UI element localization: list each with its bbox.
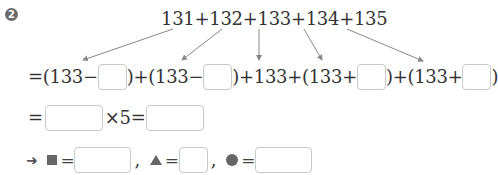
answer-box-row2-3[interactable] bbox=[357, 64, 386, 90]
row2-part1-suffix: )+ bbox=[127, 65, 149, 89]
row2-part4-prefix: (133+ bbox=[407, 65, 462, 89]
triangle-equals: = bbox=[165, 148, 179, 172]
square-equals: = bbox=[60, 148, 74, 172]
row2-part2-suffix: )+133+ bbox=[232, 65, 302, 89]
square-shape-icon bbox=[47, 155, 57, 165]
row2-expression: = (133− )+ (133− )+133+ (133+ )+ (133+ ) bbox=[28, 64, 498, 90]
answer-box-circle[interactable] bbox=[255, 147, 312, 173]
row3-equals: = bbox=[28, 106, 43, 130]
answer-box-row2-1[interactable] bbox=[98, 64, 127, 90]
answer-box-row3-2[interactable] bbox=[146, 105, 204, 131]
row4-answers: ➜ = , = , = bbox=[26, 147, 312, 173]
arrow-131 bbox=[83, 29, 173, 60]
row2-part2-prefix: (133− bbox=[148, 65, 203, 89]
circle-shape-icon bbox=[226, 154, 238, 166]
answer-box-square[interactable] bbox=[74, 147, 131, 173]
row2-part3-prefix: (133+ bbox=[302, 65, 357, 89]
row2-part3-suffix: )+ bbox=[386, 65, 408, 89]
row2-equals: = bbox=[28, 65, 43, 89]
comma-1: , bbox=[134, 148, 139, 172]
comma-2: , bbox=[211, 148, 216, 172]
row2-part4-suffix: ) bbox=[491, 65, 498, 89]
result-arrow-icon: ➜ bbox=[26, 148, 37, 172]
arrow-132 bbox=[182, 29, 222, 60]
row2-part1-prefix: (133− bbox=[43, 65, 98, 89]
row3-expression: = ×5= bbox=[28, 105, 204, 131]
answer-box-row2-2[interactable] bbox=[203, 64, 232, 90]
answer-box-row2-4[interactable] bbox=[462, 64, 491, 90]
arrow-135 bbox=[347, 29, 423, 61]
times-five-equals: ×5= bbox=[105, 106, 146, 130]
arrow-134 bbox=[304, 29, 322, 60]
circle-equals: = bbox=[241, 148, 255, 172]
answer-box-triangle[interactable] bbox=[179, 147, 208, 173]
triangle-shape-icon bbox=[150, 155, 162, 165]
answer-box-row3-1[interactable] bbox=[45, 105, 103, 131]
